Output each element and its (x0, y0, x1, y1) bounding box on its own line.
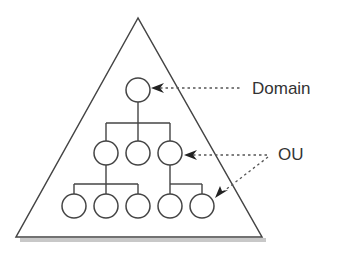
domain-label: Domain (252, 80, 311, 97)
ou-node (94, 141, 118, 165)
ou-node (158, 141, 182, 165)
triangle-shadow (20, 238, 266, 242)
ou-node (158, 194, 182, 218)
domain-root-node (126, 78, 150, 102)
ou-label: OU (278, 146, 304, 163)
ou-node (62, 194, 86, 218)
ou-node (126, 141, 150, 165)
ou-node (94, 194, 118, 218)
ou-node (126, 194, 150, 218)
ou-node (190, 194, 214, 218)
domain-ou-diagram: Domain OU (0, 0, 346, 256)
